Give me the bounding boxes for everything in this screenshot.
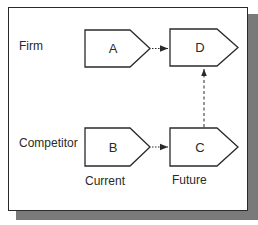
node-d-label: D bbox=[195, 40, 204, 55]
diagram-canvas: A D B C bbox=[0, 0, 258, 225]
node-a-label: A bbox=[109, 41, 118, 56]
node-b: B bbox=[85, 128, 150, 166]
node-c: C bbox=[170, 128, 238, 166]
row-label-competitor: Competitor bbox=[19, 136, 78, 150]
node-c-label: C bbox=[195, 140, 204, 155]
node-d: D bbox=[170, 29, 238, 66]
column-label-future: Future bbox=[172, 173, 207, 187]
node-a: A bbox=[85, 30, 150, 67]
row-label-firm: Firm bbox=[19, 39, 43, 53]
column-label-current: Current bbox=[85, 174, 125, 188]
node-b-label: B bbox=[109, 140, 118, 155]
